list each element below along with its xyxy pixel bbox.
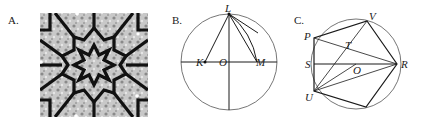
point-v-label: V xyxy=(369,10,377,22)
point-o-label: O xyxy=(219,56,227,68)
panel-b-label: B. xyxy=(172,14,182,26)
point-m-label: M xyxy=(255,56,266,68)
panel-b: B. L K O M xyxy=(172,2,277,110)
point-r-label: R xyxy=(400,58,408,70)
panel-a: A. xyxy=(8,12,148,118)
tile-image xyxy=(39,12,148,118)
point-k-label: K xyxy=(195,56,204,68)
point-u-label: U xyxy=(305,91,314,103)
point-o-label: O xyxy=(353,64,361,76)
figure-canvas: A. xyxy=(0,0,428,123)
segment-uo xyxy=(314,64,356,91)
point-p-label: P xyxy=(303,30,311,42)
chord-l xyxy=(229,14,258,33)
panel-a-label: A. xyxy=(8,14,19,26)
point-l-label: L xyxy=(224,2,231,14)
panel-c: C. V P T S O R U xyxy=(294,10,408,109)
point-t-label: T xyxy=(345,39,352,51)
point-s-label: S xyxy=(305,58,311,70)
segment-lm xyxy=(229,14,257,62)
panel-c-label: C. xyxy=(294,14,304,26)
segment-uv xyxy=(314,21,367,91)
segment-lk xyxy=(205,14,229,62)
segment-pr xyxy=(314,38,397,64)
